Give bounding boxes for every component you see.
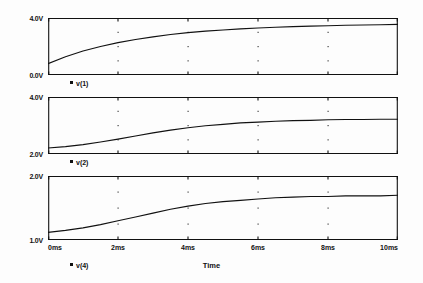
x-axis-title: Time [0,262,423,270]
grid-dot [328,139,329,140]
grid-dot [118,192,119,193]
grid-dot [258,192,259,193]
plot-area-v1 [48,18,398,75]
grid-dot [328,224,329,225]
grid-dot [118,224,119,225]
grid-dot [258,46,259,47]
grid-dot [258,139,259,140]
grid-dot [258,224,259,225]
plot-area-v2 [48,97,398,154]
x-axis-tick-label: 2ms [111,244,125,251]
y-axis-label-top-panel-2: 4.0V [29,94,43,101]
y-axis-label-top-panel-1: 4.0V [29,15,43,22]
y-axis-label-bottom-panel-2: 2.0V [29,151,43,158]
legend-v2[interactable]: v(2) [70,158,88,166]
grid-dot [328,125,329,126]
grid-dot [328,208,329,209]
grid-dot [118,208,119,209]
grid-dot [118,111,119,112]
plot-area-v4 [48,176,398,240]
legend-v1[interactable]: v(1) [70,79,88,87]
legend-label-v2: v(2) [76,159,88,166]
grid-dot [258,111,259,112]
grid-dot [258,208,259,209]
grid-dot [188,60,189,61]
transient-analysis-plot: 4.0V 0.0V v(1) 4.0V 2.0V v(2) 2.0V 1.0V … [0,0,423,283]
x-axis-tick-labels: 0ms2ms4ms6ms8ms10ms [48,244,398,256]
grid-dot [188,139,189,140]
grid-dot [258,60,259,61]
grid-dot [328,32,329,33]
y-axis-label-bottom-panel-3: 1.0V [29,237,43,244]
grid-dot [258,125,259,126]
grid-dot [188,46,189,47]
plot-panel-v4: 2.0V 1.0V [48,176,398,240]
legend-marker-icon-v1 [70,81,73,84]
grid-dot [118,125,119,126]
grid-dot [118,46,119,47]
grid-dot [188,125,189,126]
x-axis-tick-label: 6ms [251,244,265,251]
grid-dot [188,208,189,209]
data-trace-v1 [48,24,398,63]
y-axis-label-bottom-panel-1: 0.0V [29,72,43,79]
x-axis-tick-label: 10ms [380,244,398,251]
grid-dot [118,32,119,33]
data-trace-v4 [48,195,398,232]
grid-dot [118,60,119,61]
grid-dot [258,32,259,33]
grid-dot [188,224,189,225]
grid-dot [328,46,329,47]
plot-panel-v2: 4.0V 2.0V [48,97,398,154]
grid-dot [328,192,329,193]
legend-marker-icon-v2 [70,160,73,163]
grid-dot [188,111,189,112]
grid-dot [328,111,329,112]
plot-panel-v1: 4.0V 0.0V [48,18,398,75]
x-axis-tick-label: 0ms [48,244,62,251]
x-axis-tick-label: 8ms [321,244,335,251]
grid-dot [328,60,329,61]
y-axis-label-top-panel-3: 2.0V [29,173,43,180]
x-axis-tick-label: 4ms [181,244,195,251]
data-trace-v2 [48,119,398,148]
grid-dot [188,192,189,193]
legend-label-v1: v(1) [76,80,88,87]
